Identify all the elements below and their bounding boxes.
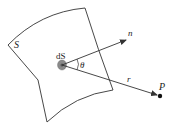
point-p-dot — [158, 94, 162, 98]
label-surface-s: S — [14, 39, 19, 50]
angle-arc — [77, 59, 79, 70]
label-normal-n: n — [128, 28, 133, 38]
surface-diagram: S dS n θ r P — [0, 0, 177, 130]
label-angle-theta: θ — [80, 60, 85, 70]
label-element-ds: dS — [56, 51, 66, 61]
label-vector-r: r — [127, 74, 131, 84]
normal-vector-arrow — [62, 40, 126, 65]
label-point-p: P — [158, 81, 165, 92]
